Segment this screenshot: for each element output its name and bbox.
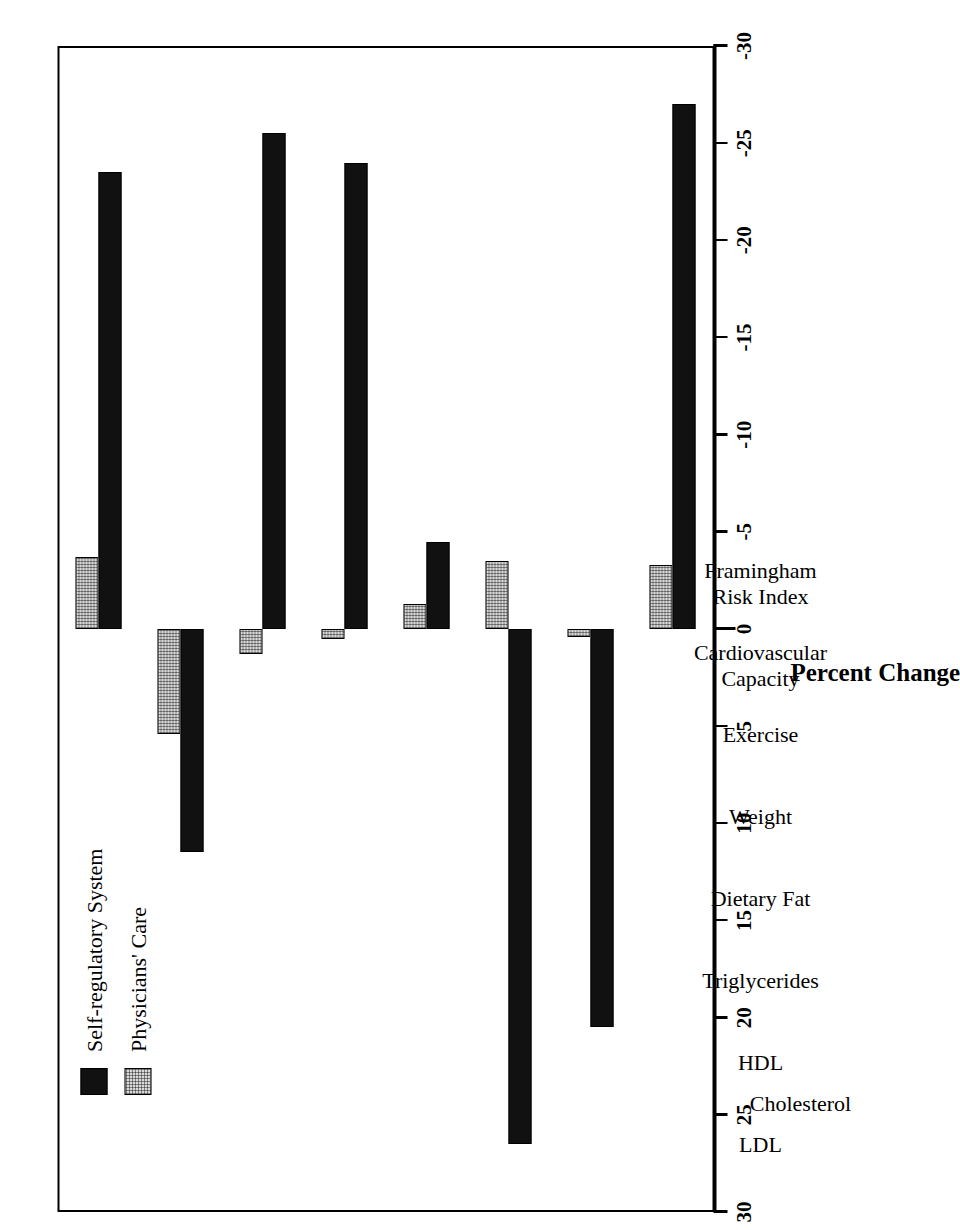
category-label-line: Triglycerides bbox=[645, 968, 875, 994]
axis-tick-label: -10 bbox=[731, 405, 756, 465]
category-label-line: Exercise bbox=[645, 722, 875, 748]
legend-entry-label: Physicians' Care bbox=[125, 907, 151, 1052]
axis-tick-label: -30 bbox=[731, 16, 756, 76]
bar-1-5 bbox=[485, 561, 508, 629]
bar-0-2 bbox=[262, 133, 285, 629]
bar-0-3 bbox=[344, 163, 367, 629]
category-label-line: Framingham bbox=[645, 558, 875, 584]
category-group-label: Cholesterol bbox=[650, 1091, 950, 1117]
legend-entry: Self-regulatory System bbox=[80, 849, 107, 1095]
category-label-line: Risk Index bbox=[645, 584, 875, 610]
bar-0-0 bbox=[98, 172, 121, 629]
axis-tick-label: -5 bbox=[731, 502, 756, 562]
category-label: LDL bbox=[645, 1132, 875, 1158]
category-label-line: Weight bbox=[645, 804, 875, 830]
category-label: Exercise bbox=[645, 722, 875, 748]
bar-0-7 bbox=[672, 104, 695, 629]
category-label-line: LDL bbox=[645, 1132, 875, 1158]
axis-tick bbox=[713, 239, 727, 242]
axis-tick-label: -25 bbox=[731, 113, 756, 173]
bar-0-1 bbox=[180, 629, 203, 852]
legend-entry-label: Self-regulatory System bbox=[81, 849, 107, 1052]
bar-0-6 bbox=[590, 629, 613, 1027]
axis-tick bbox=[713, 530, 727, 533]
axis-tick bbox=[713, 336, 727, 339]
axis-tick bbox=[713, 1016, 727, 1019]
y-axis-title: Percent Change bbox=[790, 659, 960, 687]
category-label-line: Dietary Fat bbox=[645, 886, 875, 912]
axis-tick-label: 20 bbox=[731, 988, 756, 1048]
axis-tick bbox=[713, 45, 727, 48]
axis-tick bbox=[713, 1211, 727, 1214]
bar-1-4 bbox=[403, 604, 426, 629]
category-label: Dietary Fat bbox=[645, 886, 875, 912]
bar-0-4 bbox=[426, 542, 449, 629]
bar-1-3 bbox=[321, 629, 344, 639]
category-label-line: HDL bbox=[645, 1050, 875, 1076]
axis-tick-label: -20 bbox=[731, 210, 756, 270]
axis-tick bbox=[713, 919, 727, 922]
axis-tick-label: -15 bbox=[731, 308, 756, 368]
category-label: Triglycerides bbox=[645, 968, 875, 994]
axis-tick bbox=[713, 142, 727, 145]
chart-legend: Self-regulatory System Physicians' Care bbox=[80, 849, 168, 1095]
category-label: HDL bbox=[645, 1050, 875, 1076]
legend-entry: Physicians' Care bbox=[124, 849, 151, 1095]
dark-square-swatch bbox=[80, 1068, 107, 1095]
axis-tick bbox=[713, 433, 727, 436]
category-label: Weight bbox=[645, 804, 875, 830]
bar-1-2 bbox=[239, 629, 262, 654]
axis-tick-label: 30 bbox=[731, 1182, 756, 1230]
bar-1-0 bbox=[75, 557, 98, 629]
bar-0-5 bbox=[508, 629, 531, 1144]
category-label: FraminghamRisk Index bbox=[645, 558, 875, 610]
stippled-square-swatch bbox=[124, 1068, 151, 1095]
bar-1-1 bbox=[157, 629, 180, 734]
bar-1-6 bbox=[567, 629, 590, 637]
